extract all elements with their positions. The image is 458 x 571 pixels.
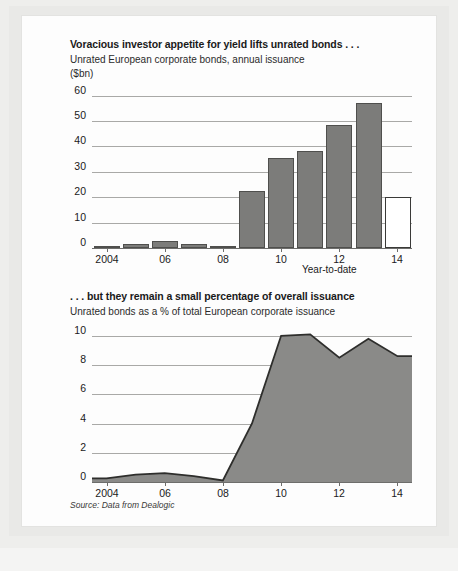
bar-2005 [123,244,149,248]
chart-unrated-share: . . . but they remain a small percentage… [22,272,436,526]
x-tick-label-top: 2004 [87,254,127,265]
bar-2013 [356,103,382,248]
x-tick-mark-bottom [223,482,224,486]
source-note: Source: Data from Dealogic [70,500,174,510]
y-tick-label-bottom: 8 [58,354,86,364]
x-tick-label-bottom: 06 [145,488,185,499]
x-tick-mark-top [165,248,166,252]
bar-2012 [326,125,352,248]
x-tick-mark-top [281,248,282,252]
chart-unit-top: ($bn) [70,67,190,80]
x-tick-mark-bottom [165,482,166,486]
x-tick-mark-bottom [281,482,282,486]
chart-subtitle-top: Unrated European corporate bonds, annual… [70,53,430,66]
x-tick-label-top: 14 [377,254,417,265]
bar-2007 [181,244,207,248]
x-tick-mark-top [339,248,340,252]
plot-area-top: 010203040506020040608101214 [92,88,412,248]
y-tick-label-top: 20 [58,186,86,196]
bar-2011 [297,151,323,248]
gridline-top [92,96,412,97]
x-tick-label-bottom: 10 [261,488,301,499]
chart-subtitle-bottom: Unrated bonds as a % of total European c… [70,305,440,318]
y-tick-label-top: 0 [58,237,86,247]
x-tick-mark-top [223,248,224,252]
axis-baseline-top [92,248,412,249]
x-tick-label-bottom: 14 [377,488,417,499]
x-tick-label-top: 08 [203,254,243,265]
bar-2006 [152,241,178,248]
y-tick-label-bottom: 2 [58,442,86,452]
x-tick-mark-top [107,248,108,252]
x-tick-mark-bottom [397,482,398,486]
y-tick-label-bottom: 0 [58,471,86,481]
x-tick-mark-bottom [339,482,340,486]
chart-title-top: Voracious investor appetite for yield li… [70,38,430,51]
figure-container: Voracious investor appetite for yield li… [0,0,458,571]
area-series-svg [92,327,412,483]
y-tick-label-top: 30 [58,161,86,171]
figure-bottom-margin [0,548,458,571]
plot-area-bottom: 024681020040608101214 [92,327,412,482]
bar-2009 [239,191,265,248]
bar-2014-ytd [385,197,411,248]
x-tick-label-bottom: 08 [203,488,243,499]
y-tick-label-top: 40 [58,135,86,145]
x-tick-mark-bottom [107,482,108,486]
x-tick-label-bottom: 2004 [87,488,127,499]
y-tick-label-top: 10 [58,212,86,222]
y-tick-label-top: 50 [58,110,86,120]
chart-unrated-issuance: Voracious investor appetite for yield li… [22,16,436,281]
x-tick-label-top: 06 [145,254,185,265]
area-fill [92,334,412,482]
y-tick-label-bottom: 6 [58,383,86,393]
x-tick-mark-top [397,248,398,252]
x-tick-label-top: 10 [261,254,301,265]
y-tick-label-bottom: 4 [58,413,86,423]
chart-title-bottom: . . . but they remain a small percentage… [70,290,430,303]
bar-2010 [268,158,294,248]
y-tick-label-top: 60 [58,85,86,95]
y-tick-label-bottom: 10 [58,325,86,335]
x-tick-label-bottom: 12 [319,488,359,499]
